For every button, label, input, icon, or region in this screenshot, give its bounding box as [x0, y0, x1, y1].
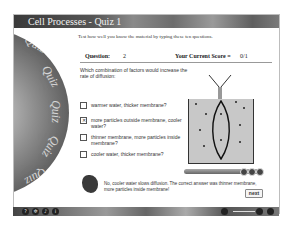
particle — [239, 124, 241, 126]
particle — [220, 113, 222, 115]
help-icon[interactable]: ? — [22, 208, 29, 215]
question-number: 2 — [123, 53, 126, 59]
particle — [235, 101, 237, 103]
particle — [199, 129, 201, 131]
particle — [243, 107, 245, 109]
volume-slider[interactable] — [233, 211, 255, 212]
disc-word: Quiz — [38, 133, 62, 160]
option-label: thinner membrane, more particles inside … — [91, 134, 183, 146]
play-icon[interactable] — [248, 168, 256, 176]
particle — [220, 139, 222, 141]
mascot-icon — [82, 175, 98, 193]
option-label: warmer water, thicker membrane? — [91, 102, 183, 108]
next-button[interactable]: next — [245, 189, 263, 198]
disc-word: Quiz — [38, 63, 62, 90]
disc-word: Quiz — [48, 100, 63, 123]
volume-icon[interactable] — [221, 208, 228, 215]
audio-icon[interactable]: ♪ — [42, 208, 49, 215]
back-icon[interactable] — [256, 208, 263, 215]
checkbox[interactable] — [80, 151, 87, 158]
disc-word: Quiz — [22, 164, 49, 188]
quiz-disc-decoration: Quiz Quiz Quiz Quiz Quiz — [13, 29, 69, 197]
app-window: Cell Processes - Quiz 1 Quiz Quiz Quiz Q… — [13, 14, 280, 214]
option-label: more particles outside membrane, cooler … — [91, 117, 183, 129]
checkbox[interactable] — [80, 134, 87, 141]
info-icon[interactable]: i — [52, 208, 59, 215]
title-bar: Cell Processes - Quiz 1 — [14, 15, 279, 28]
feedback-text: No, cooler water slows diffusion. The co… — [104, 181, 259, 197]
beaker — [188, 99, 254, 164]
particle — [239, 141, 241, 143]
rewind-icon[interactable] — [240, 168, 248, 176]
disc-word: Quiz — [22, 32, 49, 56]
window-title: Cell Processes - Quiz 1 — [28, 15, 121, 28]
bottom-toolbar: ? ✲ ♪ i — [13, 207, 279, 216]
option-label: cooler water, thicker membrane? — [91, 151, 183, 157]
forward-icon[interactable] — [256, 168, 264, 176]
question-label: Question: — [85, 53, 110, 59]
intro-text: Test how well you know the material by t… — [78, 34, 213, 39]
checkbox[interactable] — [80, 102, 87, 109]
forward-nav-icon[interactable] — [267, 208, 274, 215]
particle — [205, 113, 207, 115]
settings-icon[interactable]: ✲ — [32, 208, 39, 215]
question-text: Which combination of factors would incre… — [80, 67, 188, 79]
particle — [203, 145, 205, 147]
diffusion-animation — [176, 47, 266, 197]
checkbox-checked[interactable]: ✕ — [80, 117, 87, 124]
particle — [195, 103, 197, 105]
